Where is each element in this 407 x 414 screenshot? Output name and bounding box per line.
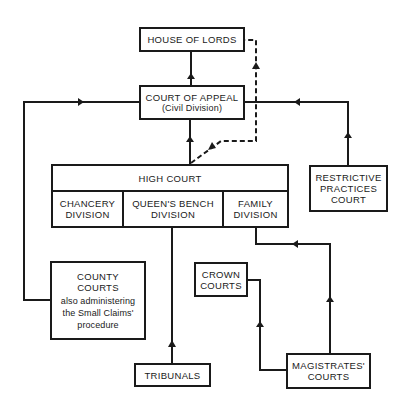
court-of-appeal-box: COURT OF APPEAL (Civil Division) [139,85,245,120]
county-line1: COUNTY [77,271,119,282]
crown-line1: CROWN [202,269,240,280]
queens-bench-line1: QUEEN'S BENCH [132,198,214,209]
restrictive-line3: COURT [331,194,366,205]
crown-courts-box: CROWN COURTS [194,262,248,297]
court-of-appeal-label: COURT OF APPEAL [146,92,239,103]
chancery-line1: CHANCERY [60,198,116,209]
restrictive-line2: PRACTICES [320,183,377,194]
magistrates-line2: COURTS [308,371,350,382]
tribunals-label: TRIBUNALS [144,370,200,381]
house-of-lords-box: HOUSE OF LORDS [139,27,245,52]
chancery-division: CHANCERY DIVISION [53,192,124,226]
queens-bench-line2: DIVISION [151,209,195,220]
family-line1: FAMILY [238,198,273,209]
queens-bench-division: QUEEN'S BENCH DIVISION [124,192,224,226]
county-note2: the Small Claims' [63,307,134,319]
restrictive-line1: RESTRICTIVE [315,172,381,183]
high-court-box: HIGH COURT CHANCERY DIVISION QUEEN'S BEN… [51,164,289,228]
county-line2: COURTS [77,282,119,293]
high-court-label: HIGH COURT [139,173,202,184]
county-note3: procedure [77,319,118,331]
house-of-lords-label: HOUSE OF LORDS [147,34,236,45]
court-of-appeal-sublabel: (Civil Division) [162,103,222,114]
county-note1: also administering [61,295,135,307]
edge-restrictive-to-appeal [244,102,348,165]
restrictive-practices-box: RESTRICTIVE PRACTICES COURT [309,165,388,212]
family-division: FAMILY DIVISION [224,192,287,226]
edge-magistrates-to-family [256,227,330,353]
magistrates-line1: MAGISTRATES' [292,360,365,371]
crown-line2: COURTS [200,280,242,291]
chancery-line2: DIVISION [65,209,109,220]
high-court-header: HIGH COURT [53,166,287,192]
tribunals-box: TRIBUNALS [134,363,211,387]
edge-magistrates-to-crown [247,280,286,370]
family-line2: DIVISION [233,209,277,220]
county-courts-box: COUNTY COURTS also administering the Sma… [50,261,146,340]
magistrates-courts-box: MAGISTRATES' COURTS [286,353,371,389]
